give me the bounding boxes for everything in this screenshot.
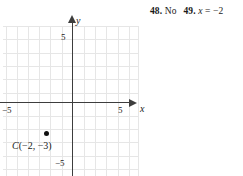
gridline-vertical bbox=[95, 26, 96, 176]
x-axis-arrow-icon bbox=[129, 99, 137, 107]
gridline-vertical bbox=[6, 26, 7, 176]
gridline-horizontal bbox=[3, 169, 138, 170]
gridline-horizontal bbox=[3, 129, 138, 130]
x-axis-tick-label-5: 5 bbox=[118, 106, 123, 115]
answer-key-line: 48.No49.x = −2 bbox=[150, 4, 243, 18]
gridline-vertical bbox=[106, 26, 107, 176]
x-axis bbox=[0, 102, 131, 103]
gridline-vertical bbox=[62, 26, 63, 176]
gridline-horizontal bbox=[3, 79, 138, 80]
x-axis-tick-label-negative-5: −5 bbox=[2, 106, 12, 115]
y-axis bbox=[72, 22, 73, 176]
plotted-point-c bbox=[44, 131, 50, 137]
y-axis-arrow-icon bbox=[68, 15, 76, 23]
gridline-horizontal bbox=[3, 53, 138, 54]
answer-text-48: No bbox=[165, 6, 177, 16]
answer-number-49: 49. bbox=[184, 6, 196, 16]
coordinate-plane-graph: x y −5 5 5 −5 C(−2, −3) bbox=[0, 0, 160, 176]
gridline-vertical bbox=[84, 26, 85, 176]
y-axis-tick-label-5: 5 bbox=[61, 33, 66, 42]
grid-area bbox=[3, 26, 138, 176]
gridline-horizontal bbox=[3, 26, 138, 27]
gridline-vertical bbox=[17, 26, 18, 176]
y-axis-tick-label-negative-5: −5 bbox=[55, 159, 65, 168]
gridline-horizontal bbox=[3, 66, 138, 67]
gridline-horizontal bbox=[3, 93, 138, 94]
point-label-coords: (−2, −3) bbox=[19, 140, 52, 151]
gridline-vertical bbox=[50, 26, 51, 176]
gridline-horizontal bbox=[3, 116, 138, 117]
gridline-horizontal bbox=[3, 39, 138, 40]
gridline-vertical bbox=[39, 26, 40, 176]
point-label-name: C bbox=[12, 140, 19, 151]
x-axis-label: x bbox=[140, 104, 144, 114]
answer-equation-49: = −2 bbox=[203, 6, 224, 16]
plotted-point-label: C(−2, −3) bbox=[12, 140, 52, 151]
gridline-horizontal bbox=[3, 156, 138, 157]
gridline-vertical bbox=[118, 26, 119, 176]
y-axis-label: y bbox=[76, 16, 80, 26]
gridline-vertical bbox=[138, 26, 139, 176]
gridline-vertical bbox=[28, 26, 29, 176]
